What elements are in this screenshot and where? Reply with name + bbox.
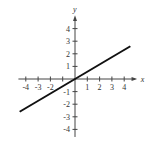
x-axis-arrow-icon [132,77,138,81]
x-tick-label: -2 [47,83,54,92]
y-tick-label: 1 [66,62,70,71]
y-tick-label: -3 [63,113,70,122]
y-axis-arrow-icon [73,15,77,21]
axes: xy [18,5,144,137]
y-tick-label: 4 [66,25,70,34]
x-tick-label: 1 [85,83,89,92]
line-graph: xy -4-3-212344321-1-2-3-4 [0,0,152,147]
y-tick-label: -2 [63,100,70,109]
x-tick-label: 2 [98,83,102,92]
y-axis-label: y [72,5,77,14]
x-tick-label: 4 [122,83,126,92]
y-tick-label: 3 [66,37,70,46]
y-tick-label: -4 [63,125,70,134]
x-tick-label: 3 [110,83,114,92]
y-tick-label: -1 [63,88,70,97]
x-axis-label: x [140,75,145,84]
y-tick-label: 2 [66,50,70,59]
x-tick-label: -4 [22,83,29,92]
x-tick-label: -3 [35,83,42,92]
